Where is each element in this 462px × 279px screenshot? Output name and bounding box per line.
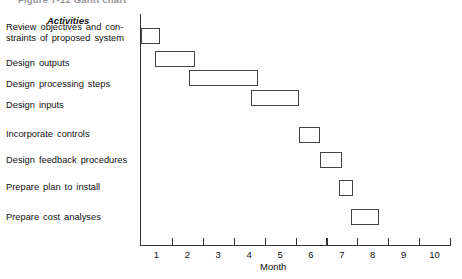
x-axis-tick (203, 238, 204, 246)
x-axis-tick-label: 4 (239, 249, 259, 260)
x-axis-tick-label: 8 (363, 249, 383, 260)
activity-label-line: Incorporate controls (6, 129, 138, 140)
x-axis-tick (265, 238, 266, 246)
x-axis-tick-label: 7 (332, 249, 352, 260)
activity-label-line: Design outputs (6, 58, 138, 69)
x-axis-tick-label: 6 (301, 249, 321, 260)
activity-label-line: straints of proposed system (6, 33, 138, 44)
gantt-bar (339, 180, 353, 196)
x-axis-tick (450, 238, 451, 246)
x-axis-tick-label: 2 (177, 249, 197, 260)
x-axis-tick (172, 238, 173, 246)
activity-label: Review objectives and con-straints of pr… (6, 22, 138, 43)
y-axis-line (140, 14, 141, 246)
gantt-bar (251, 90, 299, 106)
gantt-bar (141, 28, 160, 44)
x-axis-title: Month (260, 261, 286, 272)
x-axis-tick (357, 238, 358, 246)
gantt-bar (320, 152, 342, 168)
x-axis-tick-label: 10 (425, 249, 445, 260)
x-axis-tick (388, 238, 389, 246)
activity-label: Prepare cost analyses (6, 212, 138, 223)
x-axis-tick (419, 238, 420, 246)
activity-label-line: Design feedback procedures (6, 155, 138, 166)
activity-label-line: Prepare cost analyses (6, 212, 138, 223)
x-axis-tick-label: 9 (394, 249, 414, 260)
x-axis-tick (296, 238, 297, 246)
activity-label: Incorporate controls (6, 129, 138, 140)
gantt-bar (155, 51, 195, 67)
activity-label-line: Design processing steps (6, 79, 138, 90)
x-axis-tick-label: 3 (208, 249, 228, 260)
activity-label-line: Prepare plan to install (6, 182, 138, 193)
x-axis-tick (326, 238, 327, 246)
x-axis-tick-label: 5 (270, 249, 290, 260)
activity-label: Design feedback procedures (6, 155, 138, 166)
x-axis-tick-label: 1 (146, 249, 166, 260)
gantt-bar (299, 127, 321, 143)
activity-label: Design outputs (6, 58, 138, 69)
activity-label: Design inputs (6, 100, 138, 111)
activity-label-line: Review objectives and con- (6, 22, 138, 33)
gantt-chart: Activities Review objectives and con-str… (0, 0, 462, 279)
activity-label: Design processing steps (6, 79, 138, 90)
activity-label-line: Design inputs (6, 100, 138, 111)
gantt-bar (351, 209, 379, 225)
activity-label: Prepare plan to install (6, 182, 138, 193)
x-axis-tick (234, 238, 235, 246)
gantt-bar (189, 70, 259, 86)
